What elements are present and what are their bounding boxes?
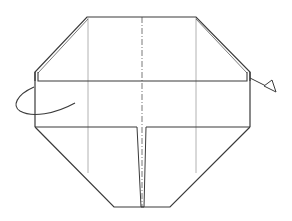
- top-band: [38, 72, 247, 81]
- left-diagonal-inner-edge: [38, 19, 88, 73]
- turn-over-arrow-icon: [16, 87, 75, 114]
- fold-arrow-icon: [264, 80, 276, 92]
- origami-diagram: [0, 0, 292, 221]
- upper-outline: [35, 17, 250, 81]
- center-slit: [137, 127, 146, 207]
- right-diagonal-inner-edge: [196, 19, 247, 73]
- lower-outline: [35, 127, 250, 207]
